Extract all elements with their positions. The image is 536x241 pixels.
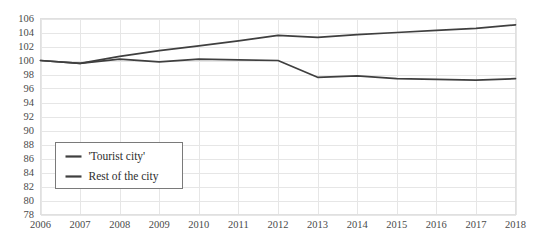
- x-axis-tick-label: 2009: [149, 219, 170, 230]
- x-axis-tick-label: 2015: [386, 219, 407, 230]
- x-axis-tick-label: 2016: [426, 219, 447, 230]
- x-axis-tick-label: 2012: [268, 219, 289, 230]
- x-axis-tick-label: 2006: [30, 219, 51, 230]
- x-axis-tick-label: 2010: [188, 219, 209, 230]
- y-axis-tick-label: 84: [24, 167, 35, 178]
- x-axis-tick-label: 2007: [70, 219, 91, 230]
- y-axis-tick-label: 86: [24, 153, 35, 164]
- y-axis-tick-label: 82: [24, 181, 35, 192]
- y-axis-tick-label: 90: [24, 125, 35, 136]
- y-axis-tick-label: 106: [18, 13, 34, 24]
- chart-canvas: 7880828486889092949698100102104106 20062…: [0, 0, 536, 241]
- y-axis-tick-label: 88: [24, 139, 35, 150]
- y-axis-tick-label: 94: [24, 97, 35, 108]
- x-axis-tick-label: 2011: [228, 219, 249, 230]
- legend-label-tourist-city: 'Tourist city': [89, 150, 146, 163]
- legend-label-rest-of-the-city: Rest of the city: [89, 170, 159, 183]
- y-axis-tick-label: 104: [18, 27, 35, 38]
- y-axis-tick-label: 96: [24, 83, 35, 94]
- x-axis-tick-label: 2014: [347, 219, 369, 230]
- x-axis-tick-label: 2013: [307, 219, 328, 230]
- line-chart: 7880828486889092949698100102104106 20062…: [0, 0, 536, 241]
- x-axis-tick-labels: 2006200720082009201020112012201320142015…: [30, 219, 526, 230]
- chart-legend: 'Tourist city'Rest of the city: [56, 143, 183, 189]
- y-axis-tick-label: 92: [24, 111, 35, 122]
- x-axis-tick-label: 2008: [109, 219, 130, 230]
- y-axis-tick-label: 80: [24, 195, 35, 206]
- y-axis-tick-label: 100: [18, 55, 34, 66]
- y-axis-tick-label: 102: [18, 41, 34, 52]
- y-axis-tick-labels: 7880828486889092949698100102104106: [18, 13, 35, 220]
- x-axis-tick-label: 2018: [505, 219, 526, 230]
- x-axis-tick-label: 2017: [465, 219, 486, 230]
- y-axis-tick-label: 98: [24, 69, 35, 80]
